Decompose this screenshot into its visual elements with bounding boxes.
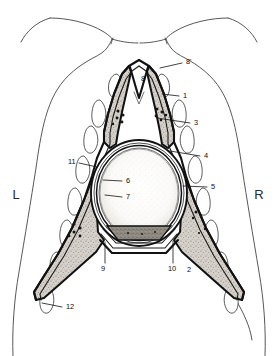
callout-3: 3 — [194, 118, 198, 127]
callout-5: 5 — [211, 182, 215, 191]
callout-12: 12 — [66, 302, 74, 311]
vertebral-body-block — [100, 226, 178, 253]
callout-2: 2 — [187, 265, 191, 274]
callout-11: 11 — [68, 157, 76, 166]
callout-8prime: 8' — [186, 57, 192, 66]
left-orientation-marker: L — [12, 187, 19, 202]
callout-9: 9 — [101, 264, 105, 273]
right-orientation-marker: R — [254, 187, 263, 202]
thoracic-section-diagram: 8' 8 1 3 4 5 6 7 11 9 10 2 12 L R — [0, 0, 277, 356]
anatomical-figure: 8' 8 1 3 4 5 6 7 11 9 10 2 12 L R — [0, 0, 277, 356]
vertebra-fill — [107, 226, 171, 240]
callout-4: 4 — [204, 151, 208, 160]
callout-6: 6 — [126, 176, 130, 185]
callout-8: 8 — [141, 74, 145, 83]
callout-1: 1 — [183, 91, 187, 100]
callout-10: 10 — [168, 264, 176, 273]
callout-7: 7 — [126, 192, 130, 201]
